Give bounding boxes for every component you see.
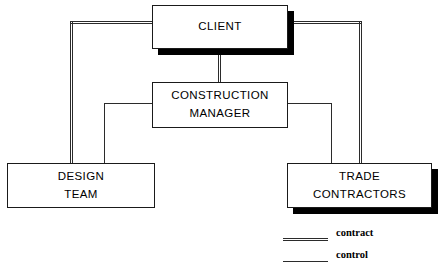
legend-label-control: control (336, 249, 368, 260)
node-client-label-line-1: CLIENT (198, 18, 241, 36)
contract-line-client-to-trade-contractors-vertical (359, 21, 362, 164)
control-line-manager-to-design-team-horizontal (104, 103, 153, 104)
node-construction-manager[interactable]: CONSTRUCTION MANAGER (152, 82, 288, 128)
trade-contractors-box-shadow-bottom (293, 208, 438, 214)
contract-line-client-to-design-team-vertical (70, 21, 73, 164)
control-line-manager-to-design-team-vertical (104, 103, 105, 164)
legend-item-control: control (283, 249, 433, 267)
legend-swatch-control-single-line (283, 261, 328, 262)
legend-swatch-contract-double-line (283, 238, 328, 241)
node-trade-contractors-label-line-1: TRADE (339, 168, 380, 186)
legend-item-contract: contract (283, 227, 433, 245)
legend: contract control (283, 227, 433, 271)
contract-line-client-to-design-team-horizontal (70, 21, 154, 24)
control-line-manager-to-trade-contractors-horizontal (287, 103, 332, 104)
legend-label-contract: contract (336, 227, 373, 238)
node-client[interactable]: CLIENT (152, 5, 288, 49)
node-construction-manager-label-line-2: MANAGER (190, 105, 251, 123)
org-chart-diagram: CLIENT CONSTRUCTION MANAGER DESIGN TEAM … (0, 0, 439, 275)
contract-line-client-to-trade-contractors-horizontal (286, 21, 362, 24)
node-design-team-label-line-2: TEAM (64, 186, 98, 204)
control-line-manager-to-trade-contractors-vertical (331, 103, 332, 164)
node-trade-contractors-label-line-2: CONTRACTORS (313, 186, 406, 204)
node-construction-manager-label-line-1: CONSTRUCTION (171, 87, 268, 105)
node-design-team-label-line-1: DESIGN (58, 168, 105, 186)
client-box-shadow-bottom (158, 49, 294, 55)
node-design-team[interactable]: DESIGN TEAM (7, 163, 155, 208)
node-trade-contractors[interactable]: TRADE CONTRACTORS (287, 163, 432, 208)
